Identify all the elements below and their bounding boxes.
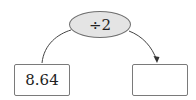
input-curve: [42, 30, 71, 63]
operation-label: ÷2: [89, 16, 111, 34]
arrowhead-icon: [154, 56, 160, 63]
output-box[interactable]: [132, 64, 188, 96]
operation-ellipse: ÷2: [69, 11, 131, 38]
input-value: 8.64: [25, 71, 58, 89]
output-arrow-curve: [129, 31, 157, 61]
input-box: 8.64: [14, 64, 70, 96]
